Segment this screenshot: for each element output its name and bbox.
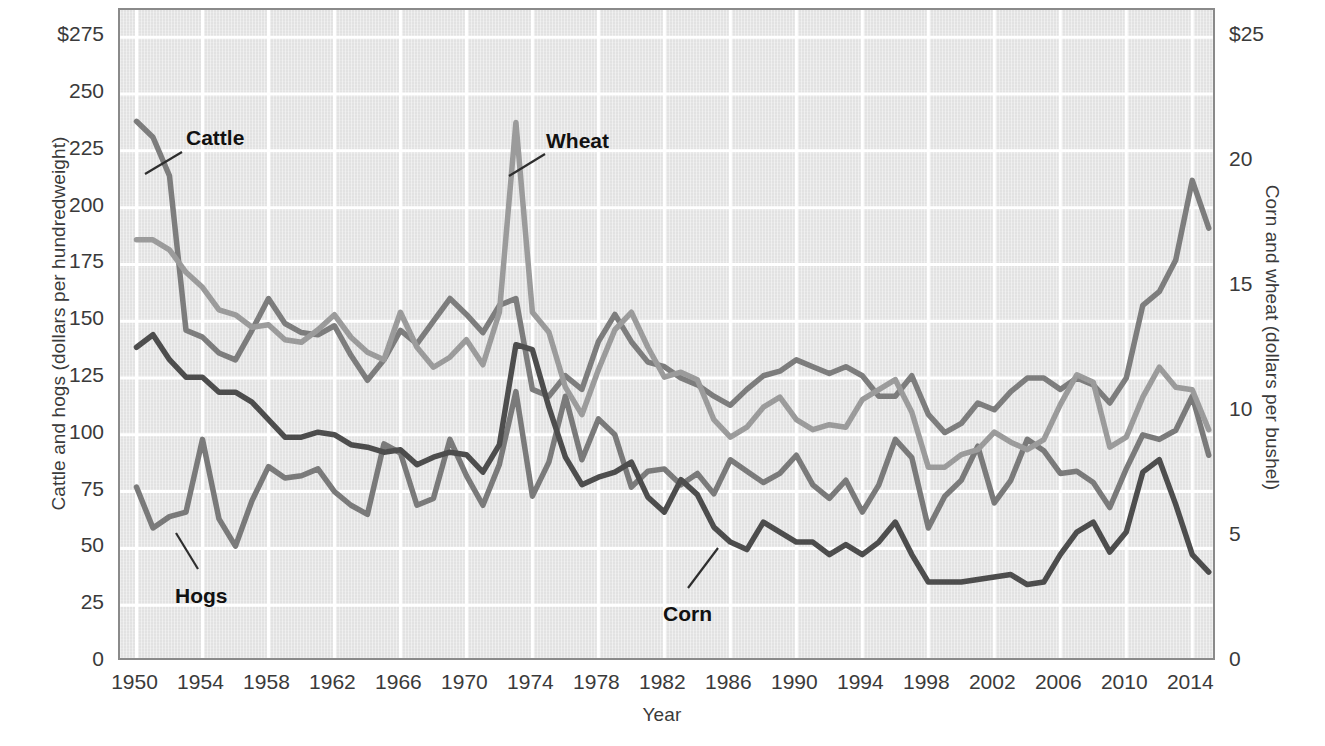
y-tick-right-20: 20: [1229, 147, 1319, 171]
y-tick-left-50: 50: [14, 533, 104, 557]
y-tick-right-10: 10: [1229, 397, 1319, 421]
y-tick-right-5: 5: [1229, 522, 1319, 546]
series-label-hogs: Hogs: [175, 584, 228, 608]
y-tick-right-15: 15: [1229, 272, 1319, 296]
plot-area: [118, 8, 1215, 660]
y-tick-left-0: 0: [14, 647, 104, 671]
y-tick-left-275: $275: [14, 22, 104, 46]
x-axis-title: Year: [562, 703, 762, 726]
annotation-leader-lines: [145, 152, 718, 588]
chart-figure: Cattle and hogs (dollars per hundredweig…: [0, 0, 1325, 746]
y-axis-right-title: Corn and wheat (dollars per bushel): [1261, 128, 1284, 548]
y-tick-left-250: 250: [14, 79, 104, 103]
y-tick-left-200: 200: [14, 193, 104, 217]
y-tick-right-0: 0: [1229, 647, 1319, 671]
gridlines: [120, 10, 1215, 660]
series-label-cattle: Cattle: [186, 126, 244, 150]
y-tick-left-175: 175: [14, 249, 104, 273]
x-tick-2014: 2014: [1150, 670, 1230, 694]
series-lines: [137, 121, 1209, 584]
y-tick-left-225: 225: [14, 136, 104, 160]
y-tick-left-75: 75: [14, 477, 104, 501]
plot-canvas: [120, 10, 1215, 660]
y-tick-left-25: 25: [14, 590, 104, 614]
y-tick-left-125: 125: [14, 363, 104, 387]
series-label-corn: Corn: [663, 602, 712, 626]
series-label-wheat: Wheat: [546, 129, 609, 153]
y-tick-left-150: 150: [14, 306, 104, 330]
y-tick-left-100: 100: [14, 420, 104, 444]
y-tick-right-25: $25: [1229, 22, 1319, 46]
